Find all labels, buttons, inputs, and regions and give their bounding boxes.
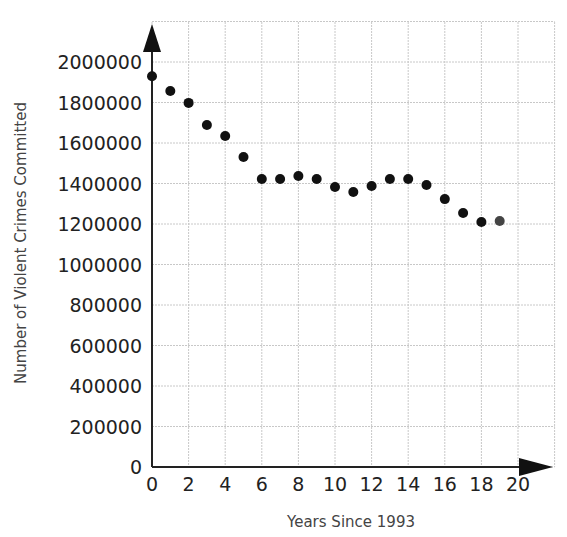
x-tick-label: 2: [183, 473, 195, 495]
y-tick-label: 1800000: [57, 92, 142, 114]
y-tick-label: 2000000: [57, 51, 142, 73]
data-point: [312, 174, 322, 184]
data-point: [147, 71, 157, 81]
y-tick-label: 600000: [69, 335, 142, 357]
x-tick-label: 8: [292, 473, 304, 495]
x-tick-labels: 02468101214161820: [146, 473, 530, 495]
data-point: [220, 131, 230, 141]
data-point: [385, 174, 395, 184]
data-point: [495, 216, 505, 226]
x-tick-label: 0: [146, 473, 158, 495]
y-tick-label: 0: [130, 456, 142, 478]
y-tick-label: 200000: [69, 416, 142, 438]
scatter-chart: 0200000400000600000800000100000012000001…: [0, 0, 567, 537]
data-point: [440, 194, 450, 204]
y-tick-label: 1400000: [57, 173, 142, 195]
y-axis-arrow-icon: [143, 24, 161, 52]
y-tick-label: 1000000: [57, 254, 142, 276]
x-tick-label: 4: [219, 473, 231, 495]
data-point: [184, 98, 194, 108]
data-point: [293, 171, 303, 181]
data-point: [275, 174, 285, 184]
y-tick-labels: 0200000400000600000800000100000012000001…: [57, 51, 142, 478]
data-point: [165, 86, 175, 96]
x-tick-label: 20: [506, 473, 530, 495]
data-point: [348, 187, 358, 197]
data-point: [257, 174, 267, 184]
data-points: [147, 71, 505, 227]
x-tick-label: 14: [396, 473, 420, 495]
data-point: [239, 152, 249, 162]
axes: [143, 24, 553, 476]
x-tick-label: 10: [323, 473, 347, 495]
x-axis-label: Years Since 1993: [286, 513, 415, 531]
x-tick-label: 6: [256, 473, 268, 495]
data-point: [476, 217, 486, 227]
data-point: [202, 120, 212, 130]
data-point: [403, 174, 413, 184]
data-point: [367, 181, 377, 191]
x-tick-label: 16: [433, 473, 457, 495]
x-tick-label: 12: [360, 473, 384, 495]
y-tick-label: 1600000: [57, 132, 142, 154]
y-tick-label: 400000: [69, 375, 142, 397]
y-tick-label: 800000: [69, 294, 142, 316]
y-axis-label: Number of Violent Crimes Committed: [12, 102, 30, 384]
grid-lines: [152, 22, 555, 468]
y-tick-label: 1200000: [57, 213, 142, 235]
data-point: [422, 180, 432, 190]
x-tick-label: 18: [469, 473, 493, 495]
data-point: [458, 208, 468, 218]
data-point: [330, 182, 340, 192]
